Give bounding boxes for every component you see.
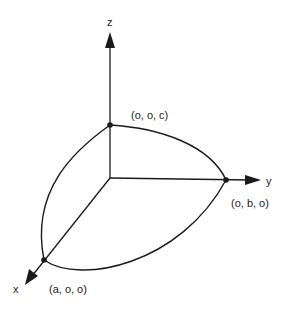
y-axis — [110, 178, 250, 180]
x-axis-label: x — [13, 283, 19, 295]
yz-trace-curve — [110, 125, 226, 180]
x-intercept-label: (a, o, o) — [49, 283, 87, 295]
ellipsoid-octant-diagram: z y x (o, o, c) (o, b, o) (a, o, o) — [0, 0, 289, 311]
xz-trace-curve — [41, 125, 110, 260]
z-axis-arrowhead-icon — [105, 32, 115, 48]
y-intercept-point — [223, 177, 229, 183]
y-axis-arrowhead-icon — [245, 175, 261, 185]
y-intercept-label: (o, b, o) — [231, 197, 269, 209]
x-intercept-point — [41, 257, 47, 263]
y-axis-label: y — [266, 175, 272, 187]
xy-trace-curve — [44, 180, 226, 270]
z-axis-label: z — [107, 16, 113, 28]
z-intercept-label: (o, o, c) — [131, 109, 168, 121]
z-intercept-point — [107, 122, 113, 128]
